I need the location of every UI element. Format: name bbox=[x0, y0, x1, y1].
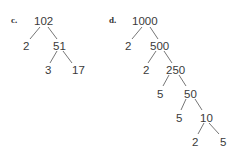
tree-node: 10 bbox=[200, 112, 213, 124]
problem-label: c. bbox=[11, 15, 17, 25]
tree-node: 5 bbox=[220, 136, 226, 148]
tree-node: 2 bbox=[192, 136, 198, 148]
tree-root: 102 bbox=[34, 15, 53, 27]
tree-node: 2 bbox=[143, 64, 149, 76]
tree-node: 2 bbox=[23, 40, 29, 52]
tree-node: 5 bbox=[157, 88, 163, 100]
tree-node: 51 bbox=[53, 40, 66, 52]
tree-node: 5 bbox=[176, 112, 182, 124]
tree-node: 500 bbox=[150, 40, 169, 52]
problem-label: d. bbox=[109, 15, 116, 25]
tree-node: 17 bbox=[72, 64, 85, 76]
tree-node: 2 bbox=[125, 40, 131, 52]
tree-node: 50 bbox=[184, 88, 197, 100]
tree-node: 3 bbox=[45, 64, 51, 76]
tree-root: 1000 bbox=[132, 15, 158, 27]
tree-node: 250 bbox=[166, 64, 185, 76]
